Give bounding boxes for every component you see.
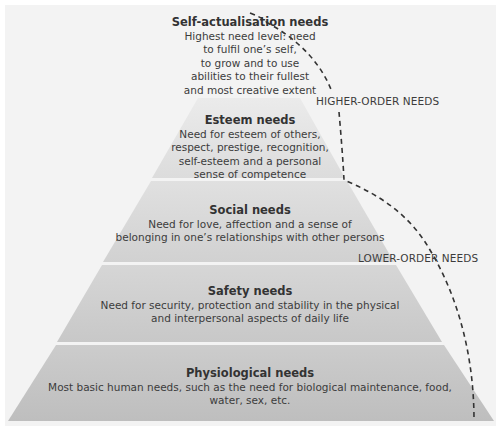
level-desc-line: water, sex, etc.	[20, 394, 480, 408]
level-desc-line: to grow and to use	[150, 57, 350, 71]
level-title: Safety needs	[60, 285, 440, 299]
level-desc-line: belonging in one’s relationships with ot…	[100, 231, 400, 245]
lower-order-needs-label: LOWER-ORDER NEEDS	[358, 252, 478, 264]
level-desc-line: Need for love, affection and a sense of	[100, 218, 400, 232]
level-desc-line: self-esteem and a personal	[150, 155, 350, 169]
level-title: Physiological needs	[20, 367, 480, 381]
level-desc-line: Most basic human needs, such as the need…	[20, 381, 480, 395]
level-title: Esteem needs	[150, 114, 350, 128]
level-desc-line: to fulfil one’s self,	[150, 43, 350, 57]
level-desc-line: Need for security, protection and stabil…	[60, 299, 440, 313]
level-desc-line: sense of competence	[150, 168, 350, 182]
level-social: Social needs Need for love, affection an…	[100, 204, 400, 245]
level-desc-line: abilities to their fullest	[150, 70, 350, 84]
level-desc-line: Highest need level: need	[150, 30, 350, 44]
level-safety: Safety needs Need for security, protecti…	[60, 285, 440, 326]
level-title: Social needs	[100, 204, 400, 218]
level-desc-line: and interpersonal aspects of daily life	[60, 312, 440, 326]
level-physiological: Physiological needs Most basic human nee…	[20, 367, 480, 408]
level-title: Self-actualisation needs	[150, 16, 350, 30]
level-desc-line: respect, prestige, recognition,	[150, 141, 350, 155]
level-self-actualisation: Self-actualisation needs Highest need le…	[150, 16, 350, 97]
higher-order-needs-label: HIGHER-ORDER NEEDS	[316, 95, 439, 107]
level-desc-line: Need for esteem of others,	[150, 128, 350, 142]
level-esteem: Esteem needs Need for esteem of others, …	[150, 114, 350, 182]
